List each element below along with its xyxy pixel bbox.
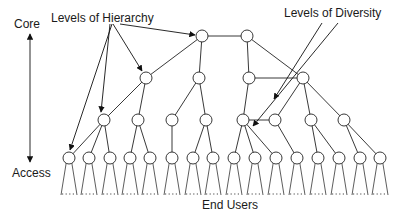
network-link xyxy=(247,36,303,78)
network-link xyxy=(146,36,202,78)
network-link xyxy=(104,78,146,120)
levels-of-diversity-label: Levels of Diversity xyxy=(284,6,381,20)
hierarchy-pointer-arrow xyxy=(120,24,195,35)
network-node-access xyxy=(333,152,345,164)
network-node-level-3 xyxy=(269,114,281,126)
network-node-access xyxy=(249,152,261,164)
network-links xyxy=(69,36,380,158)
network-node-access xyxy=(228,152,240,164)
network-link xyxy=(303,78,344,120)
network-node-level-3 xyxy=(237,114,249,126)
network-node-level-3 xyxy=(200,114,212,126)
network-node-level-2 xyxy=(243,72,255,84)
network-node-level-3 xyxy=(338,114,350,126)
network-node-access xyxy=(166,152,178,164)
network-node-access xyxy=(124,152,136,164)
access-label: Access xyxy=(12,166,51,180)
network-node-access xyxy=(144,152,156,164)
network-node-access xyxy=(63,152,75,164)
network-link xyxy=(172,78,199,120)
network-node-level-3 xyxy=(166,114,178,126)
network-node-access xyxy=(270,152,282,164)
network-hierarchy-diagram: Core Access Levels of Hierarchy Levels o… xyxy=(0,0,399,218)
network-node-core xyxy=(241,30,253,42)
core-label: Core xyxy=(14,17,40,31)
hierarchy-pointer-arrow xyxy=(113,24,142,71)
diversity-pointer-arrow xyxy=(253,23,338,126)
network-node-level-3 xyxy=(98,114,110,126)
network-node-access xyxy=(83,152,95,164)
network-node-access xyxy=(187,152,199,164)
levels-of-hierarchy-label: Levels of Hierarchy xyxy=(51,11,154,25)
network-node-level-3 xyxy=(305,114,317,126)
network-node-access xyxy=(374,152,386,164)
hierarchy-pointer-arrow xyxy=(101,24,110,112)
network-node-access xyxy=(291,152,303,164)
network-node-core xyxy=(196,30,208,42)
network-node-level-2 xyxy=(140,72,152,84)
network-link xyxy=(243,120,276,158)
network-node-access xyxy=(312,152,324,164)
network-node-level-2 xyxy=(193,72,205,84)
diversity-pointer-arrow xyxy=(274,23,322,99)
network-node-access xyxy=(104,152,116,164)
network-nodes xyxy=(63,30,386,164)
network-link xyxy=(275,78,303,120)
network-node-access xyxy=(354,152,366,164)
network-node-level-2 xyxy=(297,72,309,84)
network-node-access xyxy=(207,152,219,164)
network-node-level-3 xyxy=(132,114,144,126)
end-users-label: End Users xyxy=(202,198,258,212)
